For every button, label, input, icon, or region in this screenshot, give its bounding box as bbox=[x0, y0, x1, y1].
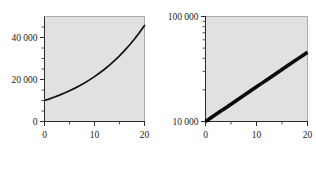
x-tick-label: 0 bbox=[203, 130, 208, 140]
y-tick-label: 0 bbox=[33, 117, 38, 127]
x-tick-label: 10 bbox=[252, 130, 262, 140]
y-tick-label: 10 000 bbox=[172, 117, 198, 127]
linear-chart-svg: 020 00040 000 01020 bbox=[0, 0, 158, 169]
chart-panel-log: 10 000100 000 01020 bbox=[158, 0, 316, 169]
x-tick-labels-log: 01020 bbox=[203, 130, 312, 140]
log-chart-svg: 10 000100 000 01020 bbox=[158, 0, 316, 169]
y-tick-label: 20 000 bbox=[11, 75, 37, 85]
x-tick-label: 0 bbox=[42, 130, 47, 140]
plot-area-background-linear bbox=[45, 17, 145, 122]
x-tick-label: 20 bbox=[140, 130, 150, 140]
x-tick-label: 10 bbox=[90, 130, 100, 140]
figure-container: 020 00040 000 01020 10 000100 000 01020 bbox=[0, 0, 316, 169]
x-tick-label: 20 bbox=[303, 130, 313, 140]
x-tick-labels-linear: 01020 bbox=[42, 130, 149, 140]
plot-area-background-log bbox=[206, 17, 308, 122]
y-tick-labels-linear: 020 00040 000 bbox=[11, 33, 37, 127]
y-tick-label: 100 000 bbox=[168, 12, 199, 22]
y-tick-label: 40 000 bbox=[11, 33, 37, 43]
y-tick-labels-log: 10 000100 000 bbox=[168, 12, 199, 127]
chart-panel-linear: 020 00040 000 01020 bbox=[0, 0, 158, 169]
